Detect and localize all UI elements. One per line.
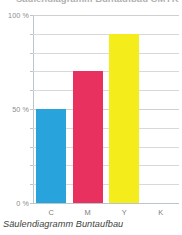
bar-C xyxy=(36,109,66,203)
bar-Y xyxy=(109,34,139,203)
x-axis-label-Y: Y xyxy=(106,208,143,217)
x-axis-label-M: M xyxy=(70,208,107,217)
bar-M xyxy=(73,71,103,203)
plot-area: 100 %50 %0 % CMYK xyxy=(0,8,182,208)
bar-slot-C xyxy=(33,15,70,203)
bar-slot-Y xyxy=(106,15,143,203)
figure-caption: Säulendiagramm Buntaufbau xyxy=(3,219,179,229)
y-axis-label-0: 0 % xyxy=(16,199,29,208)
x-axis-line xyxy=(33,203,179,204)
bar-slot-K xyxy=(143,15,180,203)
y-axis-label-50: 50 % xyxy=(12,105,29,114)
x-axis-label-C: C xyxy=(33,208,70,217)
x-axis-label-K: K xyxy=(143,208,180,217)
y-tick-0 xyxy=(30,203,33,204)
figure-title-clipped: Säulendiagramm Buntaufbau CMYK xyxy=(0,0,182,7)
bar-slot-M xyxy=(70,15,107,203)
y-axis-labels: 100 %50 %0 % xyxy=(0,15,29,203)
column-chart-figure: Säulendiagramm Buntaufbau CMYK 100 %50 %… xyxy=(0,0,182,235)
y-axis-label-100: 100 % xyxy=(8,11,29,20)
bars-container xyxy=(33,15,179,203)
figure-title-text: Säulendiagramm Buntaufbau CMYK xyxy=(16,0,179,4)
